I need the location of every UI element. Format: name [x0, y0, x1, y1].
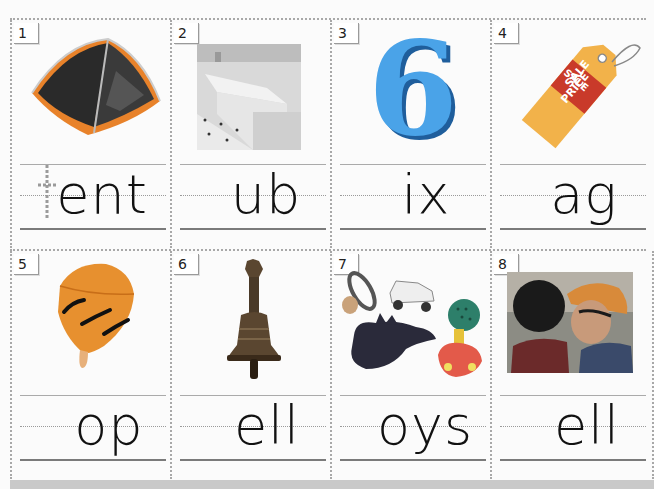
bottom-border-strip	[10, 480, 654, 489]
word-partial: ix	[402, 163, 451, 226]
word-partial: ub	[231, 163, 302, 226]
item-number: 2	[174, 23, 199, 44]
word-answer[interactable]: ell	[490, 393, 652, 473]
word-answer[interactable]: op	[10, 393, 172, 473]
card-5: 5 op	[10, 251, 172, 479]
svg-text:6: 6	[369, 30, 458, 150]
word-answer[interactable]: ub	[170, 162, 332, 242]
word-partial: ent	[56, 163, 148, 226]
word-answer[interactable]: oys	[330, 393, 492, 473]
traced-letter-t	[34, 163, 56, 213]
word-partial: ag	[550, 163, 618, 226]
card-1: 1 ent	[10, 20, 172, 248]
card-2: 2 ub	[170, 20, 332, 248]
phonics-worksheet: 1 ent 2	[0, 0, 654, 489]
bell-picture	[184, 255, 324, 387]
card-4: 4 SALE SALE PRICE ag	[490, 20, 652, 248]
toys-picture	[336, 263, 486, 393]
price-tag-picture: SALE SALE PRICE	[504, 24, 644, 156]
bathtub-picture	[197, 44, 301, 150]
tent-picture	[24, 24, 164, 156]
word-partial: ell	[234, 394, 300, 457]
spinning-top-picture	[24, 251, 164, 381]
word-answer[interactable]: ent	[10, 162, 172, 242]
word-answer[interactable]: ell	[170, 393, 332, 473]
word-partial: oys	[377, 394, 473, 457]
word-answer[interactable]: ag	[490, 162, 652, 242]
girls-whispering-picture	[507, 272, 633, 373]
word-partial: op	[74, 394, 143, 457]
card-8: 8 ell	[490, 251, 652, 479]
word-answer[interactable]: ix	[330, 162, 492, 242]
word-partial: ell	[554, 394, 620, 457]
number-six-picture: 6 6	[344, 24, 484, 156]
card-6: 6 ell	[170, 251, 332, 479]
card-3: 3 6 6 ix	[330, 20, 492, 248]
card-7: 7 oys	[330, 251, 492, 479]
